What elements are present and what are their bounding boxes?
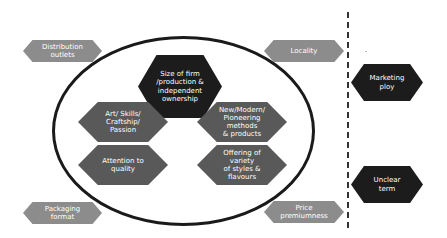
hex-label: New/Modern/ Pioneering methods & product…	[197, 106, 287, 138]
hex-label: Price premiumness	[266, 204, 342, 220]
stray-mark	[365, 51, 367, 52]
hex-price-premiumness: Price premiumness	[264, 201, 344, 223]
hex-packaging-format: Packaging format	[23, 202, 102, 224]
hex-label: Locality	[277, 47, 332, 55]
hex-distribution-outlets: Distribution outlets	[23, 40, 102, 62]
hex-label: Marketing ploy	[351, 74, 423, 90]
hex-label: Unclear term	[351, 176, 423, 192]
hex-label: Offering of variety of styles & flavours	[197, 149, 287, 181]
hex-label: Size of firm /production & independent o…	[142, 70, 218, 102]
hex-locality: Locality	[264, 40, 344, 62]
diagram-canvas: Distribution outlets Locality Packaging …	[0, 0, 447, 238]
hex-unclear-term: Unclear term	[351, 166, 423, 203]
hex-label: Art/ Skills/ Craftship/ Passion	[78, 110, 168, 134]
hex-label: Packaging format	[23, 205, 102, 221]
dashed-divider-line	[347, 12, 349, 228]
hex-label: Distribution outlets	[28, 43, 97, 59]
hex-label: Attention to quality	[78, 157, 168, 173]
hex-marketing-ploy: Marketing ploy	[351, 64, 423, 101]
